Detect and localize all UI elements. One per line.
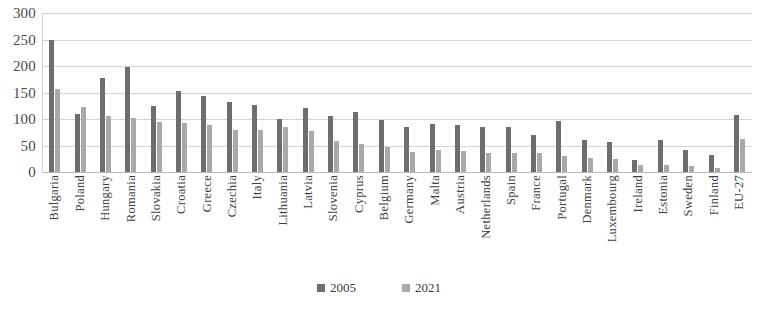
bar-2021[interactable] (106, 116, 111, 172)
x-axis-label: Sweden (682, 175, 695, 216)
bar-2021[interactable] (461, 151, 466, 172)
x-axis-label: Finland (708, 175, 721, 215)
bar-group (549, 13, 574, 172)
x-axis-label-cell: Slovenia (321, 175, 346, 270)
x-axis-label-cell: Greece (194, 175, 219, 270)
bar-2021[interactable] (638, 165, 643, 172)
bar-2005[interactable] (201, 96, 206, 172)
bar-2005[interactable] (75, 114, 80, 172)
bar-group (245, 13, 270, 172)
bar-2005[interactable] (531, 135, 536, 172)
bar-2005[interactable] (303, 108, 308, 172)
y-axis: 300250200150100500 (0, 0, 40, 180)
x-axis-baseline (42, 172, 752, 173)
bar-group (270, 13, 295, 172)
x-axis-label: Hungary (99, 175, 112, 221)
bar-2021[interactable] (182, 123, 187, 172)
bar-2021[interactable] (436, 150, 441, 172)
bar-2005[interactable] (125, 67, 130, 172)
bar-2005[interactable] (734, 115, 739, 172)
bar-2005[interactable] (49, 40, 54, 173)
x-axis-label: Spain (505, 175, 518, 205)
bar-2021[interactable] (512, 153, 517, 172)
bar-group (676, 13, 701, 172)
bar-group (143, 13, 168, 172)
bar-2005[interactable] (277, 119, 282, 172)
bar-2021[interactable] (664, 165, 669, 172)
x-axis-labels: BulgariaPolandHungaryRomaniaSlovakiaCroa… (42, 175, 752, 270)
bar-2005[interactable] (151, 106, 156, 172)
bar-2005[interactable] (658, 140, 663, 172)
bar-2021[interactable] (309, 131, 314, 172)
x-axis-label: Cyprus (353, 175, 366, 213)
x-axis-label: Lithuania (277, 175, 290, 226)
bar-2005[interactable] (353, 112, 358, 172)
bar-2021[interactable] (283, 127, 288, 172)
bar-2021[interactable] (157, 122, 162, 172)
y-axis-tick-label: 250 (13, 32, 36, 47)
x-axis-label-cell: Croatia (169, 175, 194, 270)
bar-2005[interactable] (100, 78, 105, 172)
bar-2021[interactable] (233, 130, 238, 172)
bar-2021[interactable] (715, 168, 720, 172)
legend-item-2005[interactable]: 2005 (317, 281, 356, 294)
bar-2005[interactable] (683, 150, 688, 172)
bar-2021[interactable] (359, 144, 364, 172)
bar-group (701, 13, 726, 172)
x-axis-label: Slovenia (327, 175, 340, 221)
bar-2021[interactable] (486, 153, 491, 172)
bar-group (321, 13, 346, 172)
bar-2021[interactable] (588, 158, 593, 172)
bar-2005[interactable] (227, 102, 232, 172)
bar-2005[interactable] (632, 160, 637, 172)
bar-2005[interactable] (480, 127, 485, 172)
bar-2021[interactable] (410, 152, 415, 172)
bar-2021[interactable] (689, 166, 694, 172)
bar-2005[interactable] (328, 116, 333, 172)
bar-2005[interactable] (430, 124, 435, 172)
bar-2021[interactable] (207, 125, 212, 172)
bar-2021[interactable] (562, 156, 567, 172)
y-axis-tick-label: 50 (21, 138, 36, 153)
x-axis-label-cell: France (524, 175, 549, 270)
x-axis-label-cell: EU-27 (727, 175, 752, 270)
bar-2005[interactable] (582, 140, 587, 172)
bar-2021[interactable] (537, 153, 542, 172)
bar-group (67, 13, 92, 172)
x-axis-label: Italy (251, 175, 264, 199)
bar-2005[interactable] (455, 125, 460, 172)
bar-2005[interactable] (379, 120, 384, 172)
x-axis-label-cell: Belgium (372, 175, 397, 270)
x-axis-label-cell: Netherlands (473, 175, 498, 270)
bar-group (727, 13, 752, 172)
bar-2005[interactable] (556, 121, 561, 172)
x-axis-label: EU-27 (733, 175, 746, 210)
x-axis-label-cell: Bulgaria (42, 175, 67, 270)
x-axis-label-cell: Romania (118, 175, 143, 270)
bar-2021[interactable] (740, 139, 745, 172)
bar-2021[interactable] (613, 159, 618, 172)
bar-group (42, 13, 67, 172)
bar-2021[interactable] (334, 141, 339, 172)
x-axis-label-cell: Denmark (575, 175, 600, 270)
bar-2005[interactable] (607, 142, 612, 172)
legend-item-2021[interactable]: 2021 (402, 281, 441, 294)
bar-2021[interactable] (258, 130, 263, 172)
bar-group (448, 13, 473, 172)
x-axis-label-cell: Cyprus (346, 175, 371, 270)
bar-2005[interactable] (709, 155, 714, 172)
bar-2021[interactable] (131, 118, 136, 172)
legend-swatch-icon (317, 284, 325, 292)
bar-2005[interactable] (404, 127, 409, 172)
x-axis-label-cell: Latvia (296, 175, 321, 270)
bar-2005[interactable] (506, 127, 511, 172)
bar-2021[interactable] (81, 107, 86, 172)
bar-2005[interactable] (252, 105, 257, 172)
x-axis-label-cell: Ireland (625, 175, 650, 270)
legend-label: 2005 (330, 281, 356, 294)
bar-2021[interactable] (385, 147, 390, 172)
y-axis-tick-label: 100 (13, 112, 36, 127)
x-axis-label-cell: Germany (397, 175, 422, 270)
bar-2005[interactable] (176, 91, 181, 172)
bar-2021[interactable] (55, 89, 60, 172)
